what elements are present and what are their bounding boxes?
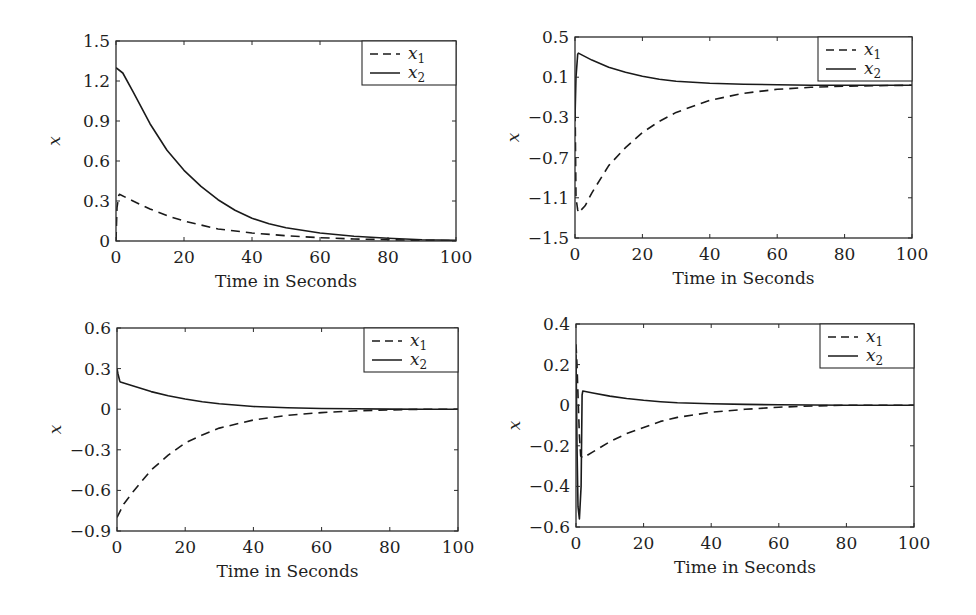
x-tick-label: 20 xyxy=(173,247,195,267)
x-axis-title: Time in Seconds xyxy=(672,268,814,288)
figure: 02040608010000.30.60.91.21.5Time in Seco… xyxy=(0,0,976,615)
x-axis-title: Time in Seconds xyxy=(674,557,816,577)
series-x2-line xyxy=(117,369,458,410)
y-tick-label: −0.9 xyxy=(70,521,111,541)
x-axis-title: Time in Seconds xyxy=(215,271,357,291)
y-tick-label: −0.3 xyxy=(528,107,569,127)
y-axis-title: x xyxy=(45,424,65,434)
y-tick-label: 1.5 xyxy=(83,31,110,51)
y-tick-label: −1.1 xyxy=(528,188,569,208)
series-x2-line xyxy=(576,355,914,519)
x-tick-label: 80 xyxy=(377,247,399,267)
y-tick-label: 0 xyxy=(559,395,570,415)
y-tick-label: −0.6 xyxy=(70,480,111,500)
subplot-bottom-left: 020406080100−0.9−0.6−0.300.30.6Time in S… xyxy=(45,318,474,581)
series-x2-line xyxy=(116,68,456,241)
y-tick-label: 0.1 xyxy=(542,67,569,87)
y-axis-title: x xyxy=(44,136,64,146)
subplot-top-right: 020406080100−1.5−1.1−0.7−0.30.10.5Time i… xyxy=(503,27,928,288)
x-tick-label: 0 xyxy=(111,247,122,267)
y-tick-label: 0.4 xyxy=(543,314,570,334)
x-tick-label: 100 xyxy=(440,247,472,267)
x-tick-label: 100 xyxy=(898,533,930,553)
y-axis-title: x xyxy=(504,420,524,430)
y-tick-label: 0.9 xyxy=(83,111,110,131)
series-x1-line xyxy=(575,85,912,213)
y-tick-label: −0.4 xyxy=(529,476,570,496)
legend: x1x2 xyxy=(362,41,456,85)
x-tick-label: 20 xyxy=(632,244,654,264)
y-tick-label: 0.3 xyxy=(84,359,111,379)
y-tick-label: 0 xyxy=(99,231,110,251)
y-tick-label: −1.5 xyxy=(528,228,569,248)
x-tick-label: 40 xyxy=(241,247,263,267)
x-tick-label: 80 xyxy=(834,244,856,264)
x-tick-label: 80 xyxy=(379,537,401,557)
subplot-top-left: 02040608010000.30.60.91.21.5Time in Seco… xyxy=(44,31,472,291)
y-tick-label: 1.2 xyxy=(83,71,110,91)
legend: x1x2 xyxy=(364,328,458,372)
x-tick-label: 40 xyxy=(700,533,722,553)
y-tick-label: 0.5 xyxy=(542,27,569,47)
y-tick-label: −0.3 xyxy=(70,440,111,460)
x-tick-label: 60 xyxy=(768,533,790,553)
x-axis-title: Time in Seconds xyxy=(216,561,358,581)
x-tick-label: 100 xyxy=(442,537,474,557)
y-tick-label: 0 xyxy=(100,399,111,419)
x-tick-label: 40 xyxy=(699,244,721,264)
series-x1-line xyxy=(117,409,458,517)
y-tick-label: −0.2 xyxy=(529,436,570,456)
x-tick-label: 20 xyxy=(174,537,196,557)
x-tick-label: 60 xyxy=(311,537,333,557)
legend: x1x2 xyxy=(818,37,912,81)
x-tick-label: 60 xyxy=(766,244,788,264)
y-tick-label: −0.7 xyxy=(528,148,569,168)
y-tick-label: −0.6 xyxy=(529,517,570,537)
x-tick-label: 80 xyxy=(836,533,858,553)
x-tick-label: 40 xyxy=(243,537,265,557)
y-tick-label: 0.2 xyxy=(543,355,570,375)
x-tick-label: 60 xyxy=(309,247,331,267)
y-tick-label: 0.6 xyxy=(83,151,110,171)
y-tick-label: 0.3 xyxy=(83,191,110,211)
x-tick-label: 100 xyxy=(896,244,928,264)
subplot-bottom-right: 020406080100−0.6−0.4−0.200.20.4Time in S… xyxy=(504,314,930,577)
legend: x1x2 xyxy=(820,324,914,368)
x-tick-label: 0 xyxy=(570,244,581,264)
y-tick-label: 0.6 xyxy=(84,318,111,338)
x-tick-label: 0 xyxy=(112,537,123,557)
y-axis-title: x xyxy=(503,132,523,142)
x-tick-label: 0 xyxy=(571,533,582,553)
series-x1-line xyxy=(116,194,456,241)
x-tick-label: 20 xyxy=(633,533,655,553)
